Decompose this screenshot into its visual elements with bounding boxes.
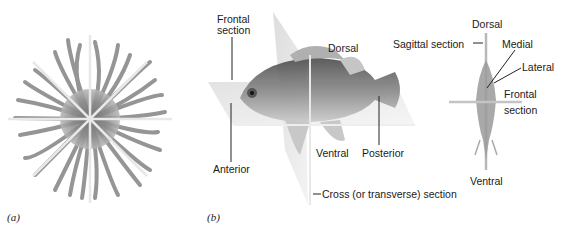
label-frontal-section-front-line1: Frontal bbox=[504, 88, 537, 100]
label-cross-section: Cross (or transverse) section bbox=[322, 188, 457, 200]
label-dorsal-front: Dorsal bbox=[472, 18, 502, 30]
label-sagittal-section: Sagittal section bbox=[393, 38, 464, 50]
diagram-canvas bbox=[0, 0, 563, 231]
label-anterior: Anterior bbox=[213, 163, 250, 175]
label-posterior: Posterior bbox=[362, 147, 404, 159]
radial-organism bbox=[8, 35, 172, 203]
label-frontal-section-line2: section bbox=[217, 24, 250, 36]
label-ventral-lateral: Ventral bbox=[316, 147, 349, 159]
fish-front-view bbox=[449, 33, 522, 170]
caption-b: (b) bbox=[207, 211, 220, 223]
label-frontal-section-front-line2: section bbox=[504, 104, 537, 116]
label-medial: Medial bbox=[502, 38, 533, 50]
label-lateral: Lateral bbox=[522, 61, 554, 73]
label-ventral-front: Ventral bbox=[470, 175, 503, 187]
caption-a: (a) bbox=[7, 211, 20, 223]
label-dorsal-lateral: Dorsal bbox=[328, 42, 358, 54]
fish-lateral-view bbox=[208, 12, 415, 205]
